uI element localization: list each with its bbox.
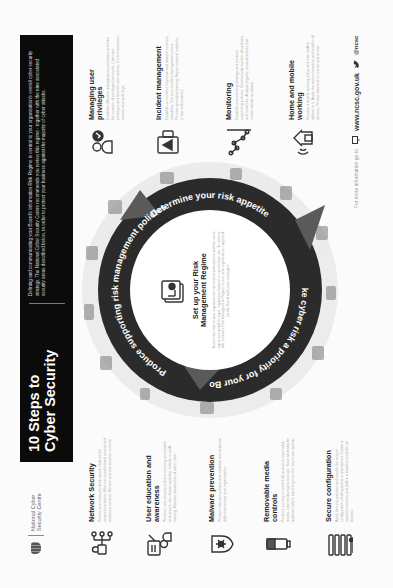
footer-lead: For more information go to [353, 149, 359, 208]
step-title: Removable media controls [263, 436, 279, 522]
royal-crest-icon [29, 540, 43, 556]
step-text: Produce relevant policies and establish … [218, 436, 228, 522]
poster-title: 10 Steps to Cyber Security [26, 332, 58, 452]
logo-text: National Cyber Security Centre [30, 479, 43, 531]
step-home-mobile-working: Home and mobile working Develop a mobile… [288, 34, 321, 156]
user-privileges-icon [88, 128, 116, 156]
title-line-2: Cyber Security [42, 332, 58, 452]
network-lock-icon [88, 530, 116, 558]
twitter-handle[interactable]: @ncsc [353, 36, 359, 56]
title-banner: 10 Steps to Cyber Security Defining and … [20, 35, 73, 462]
step-title: Malware prevention [208, 436, 216, 522]
banner-divider [29, 303, 65, 304]
step-text: Produce a policy to control all access t… [281, 436, 296, 522]
step-title: Monitoring [225, 34, 233, 120]
step-title: Network Security [88, 436, 96, 522]
step-title: Secure configuration [325, 436, 333, 522]
step-text: Produce user security policies covering … [163, 436, 178, 522]
step-incident-management: Incident management Establish an inciden… [155, 34, 185, 156]
monitor-icon [352, 136, 360, 144]
step-monitoring: Monitoring Establish a monitoring strate… [225, 34, 255, 156]
step-text: Establish an incident response and disas… [165, 34, 185, 120]
incident-warning-icon [155, 128, 183, 156]
center-content: Set up your Risk Management Regime Asses… [192, 230, 231, 350]
step-text: Establish a monitoring strategy and prod… [235, 34, 255, 120]
usb-drive-icon [263, 530, 291, 558]
infographic-poster: National Cyber Security Centre 10 Steps … [0, 0, 393, 588]
banner-intro: Defining and communicating your Board's … [28, 46, 48, 296]
step-text: Establish effective management processes… [106, 34, 126, 120]
step-managing-user-privileges: Managing user privileges Establish effec… [88, 34, 126, 156]
monitoring-graph-icon [225, 128, 253, 156]
step-text: Develop a mobile working policy and trai… [306, 34, 321, 120]
shield-bug-icon [208, 530, 236, 558]
home-wifi-icon [288, 128, 316, 156]
server-config-icon [325, 530, 353, 558]
twitter-bird-icon [353, 60, 360, 68]
user-training-icon [145, 530, 173, 558]
footer: For more information go to www.ncsc.gov.… [352, 36, 360, 208]
center-title: Set up your Risk Management Regime [192, 230, 209, 350]
center-title-line-2: Management Regime [200, 230, 208, 350]
step-text: Apply security patches and ensure the se… [335, 436, 355, 522]
step-title: Incident management [155, 34, 163, 120]
step-title: Managing user privileges [88, 34, 104, 120]
document-icon [162, 281, 183, 302]
step-malware-prevention: Malware prevention Produce relevant poli… [208, 436, 236, 558]
step-secure-configuration: Secure configuration Apply security patc… [325, 436, 355, 558]
risk-regime-ring: Produce supporting risk management polic… [80, 160, 340, 420]
website-link[interactable]: www.ncsc.gov.uk [353, 73, 360, 131]
step-removable-media: Removable media controls Produce a polic… [263, 436, 296, 558]
logo-divider [28, 535, 44, 536]
logo-line-2: Security Centre [36, 479, 43, 531]
step-title: Home and mobile working [288, 34, 304, 120]
step-network-security: Network Security Protect your networks f… [88, 436, 116, 558]
title-line-1: 10 Steps to [26, 332, 42, 452]
center-text: Assess the risks to your organisation's … [212, 230, 231, 350]
step-user-education: User education and awareness Produce use… [145, 436, 178, 558]
ncsc-logo: National Cyber Security Centre [28, 479, 44, 556]
step-title: User education and awareness [145, 436, 161, 522]
step-text: Protect your networks from attack. Defen… [98, 436, 113, 522]
